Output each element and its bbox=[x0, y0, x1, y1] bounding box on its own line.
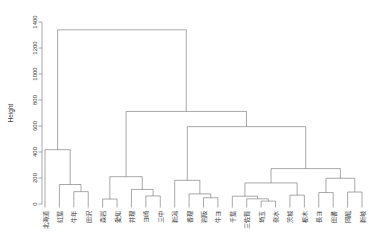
y-axis-title: Height bbox=[7, 103, 15, 122]
leaf-label: ヨ崎 bbox=[142, 211, 149, 223]
leaf-label: 牛ヨ bbox=[214, 211, 222, 223]
leaf-label: 新潟 bbox=[171, 211, 179, 223]
leaf-label: 茨城 bbox=[286, 211, 294, 223]
dendrogram-link bbox=[271, 169, 340, 183]
y-axis-ticks: 0200400600800100012001400 bbox=[32, 15, 42, 206]
dendrogram-link bbox=[348, 192, 362, 204]
dendrogram-link bbox=[126, 111, 246, 176]
dendrogram-link bbox=[131, 189, 153, 204]
leaf-label: 田沢 bbox=[85, 210, 93, 223]
leaf-label: 岩阪 bbox=[200, 211, 208, 223]
y-tick-label: 800 bbox=[32, 94, 38, 105]
y-axis-group: 0200400600800100012001400 bbox=[32, 15, 42, 206]
leaf-label: 三佐賀 bbox=[243, 211, 251, 229]
dendrogram-link bbox=[45, 150, 70, 204]
leaf-label: 栃木 bbox=[301, 211, 309, 223]
y-tick-label: 200 bbox=[32, 172, 38, 183]
y-tick-label: 0 bbox=[32, 202, 38, 206]
leaf-label: 森岩 bbox=[99, 211, 107, 223]
y-tick-label: 400 bbox=[32, 146, 38, 157]
leaf-label: 愛知 bbox=[114, 211, 122, 223]
dendrogram-link bbox=[187, 127, 305, 181]
dendrogram-link bbox=[232, 196, 257, 204]
leaf-label: 北海道 bbox=[42, 211, 50, 229]
dendrogram-link bbox=[189, 194, 211, 204]
dendrogram-link bbox=[319, 193, 333, 204]
dendrogram-chart: 0200400600800100012001400 Height 北海道紅葉牛年… bbox=[0, 0, 369, 242]
dendrogram-link bbox=[74, 192, 88, 204]
leaf-label: 牛年 bbox=[70, 211, 78, 223]
leaf-label: 井理 bbox=[128, 211, 136, 223]
leaf-label: 奈水 bbox=[272, 210, 279, 223]
y-tick-label: 1200 bbox=[32, 41, 38, 55]
dendrogram-link bbox=[146, 196, 160, 204]
dendrogram-link bbox=[58, 30, 187, 150]
dendrogram-link bbox=[245, 183, 297, 196]
leaf-label: 埼玉 bbox=[258, 211, 265, 223]
dendrogram-links bbox=[45, 30, 362, 204]
dendrogram-link bbox=[326, 178, 355, 192]
dendrogram-link bbox=[261, 201, 275, 204]
dendrogram-link bbox=[290, 195, 304, 204]
dendrogram-link bbox=[103, 199, 117, 204]
leaf-label: 長ヨ bbox=[315, 211, 323, 223]
y-tick-label: 1400 bbox=[32, 15, 38, 29]
dendrogram-link bbox=[110, 177, 142, 199]
leaf-tick-marks bbox=[45, 204, 362, 208]
leaf-label: 田書 bbox=[330, 211, 338, 223]
leaf-label: 紅葉 bbox=[56, 211, 64, 223]
leaf-label: 千葉 bbox=[229, 211, 237, 223]
dendrogram-link bbox=[204, 198, 218, 204]
leaf-label: 香理 bbox=[186, 211, 194, 223]
leaf-label: 三中 bbox=[157, 211, 165, 223]
dendrogram-link bbox=[59, 185, 81, 205]
dendrogram-link bbox=[175, 180, 200, 204]
leaf-labels-group: 北海道紅葉牛年田沢森岩愛知井理ヨ崎三中新潟香理岩阪牛ヨ千葉三佐賀埼玉奈水茨城栃木… bbox=[42, 210, 367, 229]
dendrogram-svg: 0200400600800100012001400 Height 北海道紅葉牛年… bbox=[0, 0, 369, 242]
y-tick-label: 1000 bbox=[32, 67, 38, 81]
y-tick-label: 600 bbox=[32, 120, 38, 131]
leaf-label: 岡龍 bbox=[344, 211, 352, 223]
leaf-label: 新岐 bbox=[359, 211, 367, 223]
